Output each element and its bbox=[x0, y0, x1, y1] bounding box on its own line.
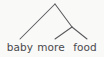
leaf-label-baby: baby bbox=[7, 41, 33, 54]
branch-root-to-baby bbox=[20, 4, 55, 39]
leaf-label-more: more bbox=[37, 41, 65, 54]
leaf-label-food: food bbox=[73, 41, 97, 54]
leaf-label-row: baby more food bbox=[0, 41, 104, 57]
branch-internal-to-food bbox=[72, 27, 87, 39]
branch-root-to-internal bbox=[55, 4, 72, 27]
syntax-tree-figure: baby more food bbox=[0, 0, 104, 57]
branch-internal-to-more bbox=[55, 27, 72, 39]
